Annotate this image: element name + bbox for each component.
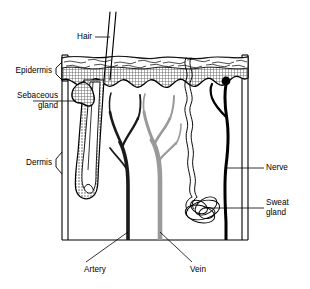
artery-label-text: Artery [84,265,107,274]
nerve-trunk [225,84,228,240]
label-sebaceous-gland: Sebaceous gland [17,91,76,110]
vein-label-text: Vein [190,265,206,274]
epidermis-bracket [56,62,62,80]
label-vein: Vein [160,232,206,274]
epidermis-label-text: Epidermis [16,66,52,75]
label-hair: Hair [77,32,110,41]
artery-leader [86,232,128,262]
dermis-label-text: Dermis [26,158,52,167]
label-nerve: Nerve [226,163,288,172]
label-artery: Artery [84,232,128,274]
nerve-label-text: Nerve [266,163,288,172]
skin-cross-section-diagram: Hair Epidermis Sebaceous gland Dermis Ne… [0,0,310,289]
dermis-contents [72,58,231,240]
skin-diagram-canvas: Hair Epidermis Sebaceous gland Dermis Ne… [0,0,310,289]
dermis-bracket [56,152,62,174]
hair-label-text: Hair [77,32,92,41]
sweat-gland [183,193,221,226]
sebaceous-label-line1: Sebaceous [17,91,58,100]
sweat-label-line1: Sweat [266,198,289,207]
vein [143,94,181,240]
sebaceous-label-line2: gland [38,101,58,110]
vein-leader [160,232,192,262]
artery [109,93,140,240]
sweat-label-line2: gland [266,208,286,217]
label-epidermis: Epidermis [16,62,62,80]
label-dermis: Dermis [26,152,62,174]
